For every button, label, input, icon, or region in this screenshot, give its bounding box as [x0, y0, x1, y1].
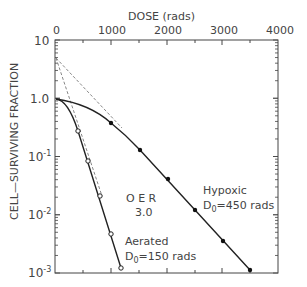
oer-label: O E R: [126, 192, 157, 205]
hypoxic-d0-label: D0=450 rads: [203, 199, 275, 214]
x-tick-1000: 1000: [98, 24, 126, 37]
x-axis-label: DOSE (rads): [128, 10, 195, 23]
oer-value: 3.0: [135, 206, 153, 219]
x-tick-0: 0: [53, 24, 60, 37]
y-tick-0.1: 10-1: [28, 149, 51, 164]
aerated-d0-label: D0=150 rads: [125, 250, 197, 265]
x-tick-4000: 4000: [266, 24, 294, 37]
aerated-extrapolation: [56, 58, 102, 196]
y-tick-0.001: 10-3: [28, 265, 51, 280]
y-tick-10: 10: [34, 34, 49, 48]
y-axis-label: CELL—SURVIVING FRACTION: [8, 63, 21, 220]
y-tick-1: 1.0: [30, 92, 49, 106]
y-tick-0.01: 10-2: [28, 207, 51, 222]
hypoxic-label: Hypoxic: [203, 184, 247, 197]
hypoxic-extrapolation: [56, 58, 122, 128]
survival-curve-chart: 0 1000 2000 3000 4000 DOSE (rads) 10 1.0…: [0, 0, 307, 287]
x-tick-2000: 2000: [154, 24, 182, 37]
x-tick-3000: 3000: [210, 24, 238, 37]
aerated-label: Aerated: [125, 235, 168, 248]
